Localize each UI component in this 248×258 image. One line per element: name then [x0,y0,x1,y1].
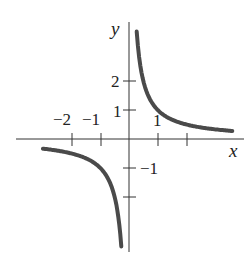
y-axis-label: y [109,18,120,39]
x-axis-label: x [228,140,238,161]
x-tick-label-neg2: −2 [53,110,71,129]
curve-right-branch [137,32,233,131]
curve-left-branch [43,149,121,247]
reciprocal-function-graph: y x −2 −1 1 2 1 −1 [0,0,248,258]
y-tick-label-neg1: −1 [140,159,158,178]
x-tick-label-neg1: −1 [82,110,100,129]
y-tick-label-pos2: 2 [111,72,120,91]
x-tick-label-pos1: 1 [153,111,162,130]
y-tick-label-pos1: 1 [113,102,122,121]
